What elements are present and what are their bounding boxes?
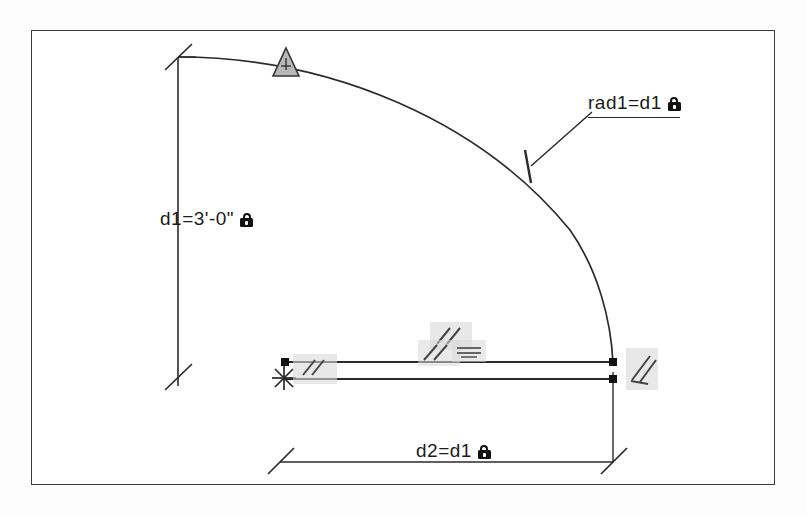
padlock-icon <box>478 445 491 459</box>
parallel-marker-left[interactable] <box>293 354 337 384</box>
padlock-icon <box>240 213 253 227</box>
radius-tick-marker[interactable] <box>525 150 531 183</box>
horizontal-dimension-value: d2=d1 <box>416 440 472 462</box>
endpoint-lower-right[interactable] <box>609 375 617 383</box>
horizontal-dimension-label[interactable]: d2=d1 <box>416 440 491 462</box>
tangent-marker[interactable] <box>273 48 299 76</box>
anchor-point[interactable] <box>272 366 296 390</box>
radius-label-underline <box>588 117 680 118</box>
padlock-icon <box>668 97 681 111</box>
radius-dimension-label[interactable]: rad1=d1 <box>588 92 681 114</box>
horizontal-dimension-tick-left <box>268 448 294 474</box>
parallel-marker-right[interactable] <box>626 348 658 390</box>
endpoint-upper-right[interactable] <box>609 358 617 366</box>
equal-marker-center[interactable] <box>452 340 486 362</box>
radius-leader-line[interactable] <box>531 112 592 166</box>
radius-dimension-value: rad1=d1 <box>588 92 662 114</box>
vertical-dimension-value: d1=3'-0" <box>160 208 234 230</box>
drawing-stage: d1=3'-0" rad1=d1 d2=d1 <box>0 0 807 517</box>
endpoint-upper-left[interactable] <box>281 358 289 366</box>
vertical-dimension-label[interactable]: d1=3'-0" <box>160 208 253 230</box>
sketch-vector-layer <box>0 0 807 517</box>
horizontal-dimension-tick-right <box>601 448 627 474</box>
